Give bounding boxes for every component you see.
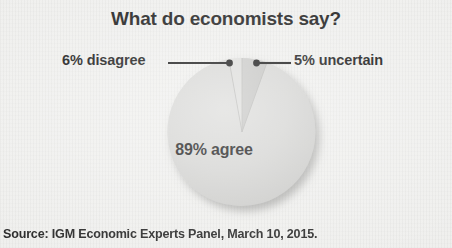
leader-dot-left xyxy=(226,60,233,67)
chart-title: What do economists say? xyxy=(0,8,452,30)
chart-figure: What do economists say? 6% disagree 5% u… xyxy=(0,0,452,248)
source-note: Source: IGM Economic Experts Panel, Marc… xyxy=(3,226,317,241)
pie-label-agree: 89% agree xyxy=(0,141,440,159)
callout-label-disagree: 6% disagree xyxy=(62,52,146,68)
pie-chart xyxy=(0,0,452,248)
callout-label-uncertain: 5% uncertain xyxy=(294,52,383,68)
leader-dot-right xyxy=(253,60,260,67)
pie-slices-group xyxy=(167,58,315,206)
